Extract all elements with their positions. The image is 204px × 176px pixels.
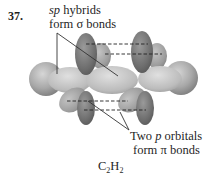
sp-hybrids-label: sp hybrids: [49, 3, 101, 17]
two-p-orbitals-label: Two p orbitals: [130, 129, 202, 143]
form-pi-bonds-label: form π bonds: [133, 143, 200, 157]
p-orbital-lobe-lower-left: [77, 91, 95, 125]
problem-number: 37.: [8, 9, 23, 23]
molecule-formula-caption: C2H2: [98, 159, 123, 175]
form-sigma-bonds-label: form σ bonds: [49, 17, 116, 31]
p-orbital-lobe-upper-left: [75, 33, 97, 75]
p-orbital-lobe-upper-right: [131, 31, 153, 73]
acetylene-orbital-diagram: 37. sp hybrids form σ bonds: [0, 0, 204, 176]
p-orbital-lobe-lower-right: [136, 91, 154, 125]
